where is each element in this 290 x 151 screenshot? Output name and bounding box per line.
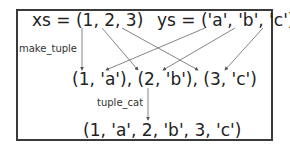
arrow-c-to-pair3: [225, 28, 263, 70]
arrow-b-to-pair2: [163, 28, 235, 70]
arrow-3-to-pair3: [122, 28, 198, 70]
arrows: [0, 0, 290, 151]
arrow-a-to-pair1: [106, 28, 205, 70]
